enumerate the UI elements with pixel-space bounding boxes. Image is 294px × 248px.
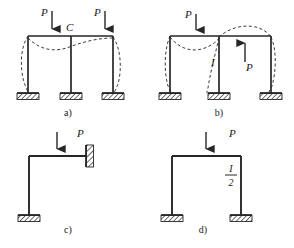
panel-a: P P C a) bbox=[17, 6, 124, 119]
panel-a-caption: a) bbox=[64, 107, 72, 119]
panel-a-node-c-label: C bbox=[66, 21, 74, 33]
panel-b-node-i-label: I bbox=[210, 56, 216, 68]
panel-b-load-up-label: P bbox=[245, 61, 253, 73]
panel-b-buckled-left-beam bbox=[170, 37, 219, 50]
buckled-curve-left-column bbox=[21, 36, 28, 92]
panel-c-caption: c) bbox=[64, 224, 72, 236]
panel-c-support-wall bbox=[86, 145, 94, 167]
figure-container: P P C a) bbox=[0, 0, 294, 248]
panel-a-support-right bbox=[102, 93, 124, 100]
panel-b-buckled-right-column bbox=[269, 37, 275, 93]
panel-c-load-label: P bbox=[76, 127, 84, 139]
panel-d-stiffness-numerator: I bbox=[228, 163, 233, 174]
structural-frames-figure: P P C a) bbox=[0, 0, 294, 248]
panel-b-caption: b) bbox=[215, 107, 223, 119]
panel-d-support-right bbox=[230, 215, 252, 222]
panel-d-support-left bbox=[161, 215, 183, 222]
panel-d-stiffness-denominator: 2 bbox=[229, 177, 234, 188]
buckled-curve-right-column bbox=[113, 37, 120, 93]
panel-d-load-label: P bbox=[228, 127, 236, 139]
panel-b: P P I b) bbox=[159, 8, 282, 119]
panel-a-load-right-label: P bbox=[93, 6, 101, 18]
panel-c-support-base bbox=[18, 215, 40, 222]
panel-d: P I 2 d) bbox=[161, 127, 252, 236]
panel-b-support-left bbox=[159, 93, 181, 100]
panel-d-caption: d) bbox=[199, 224, 207, 236]
panel-b-support-middle bbox=[208, 93, 230, 100]
panel-a-load-left-label: P bbox=[40, 6, 48, 18]
panel-b-load-down-label: P bbox=[184, 8, 192, 20]
panel-d-stiffness-label: I 2 bbox=[225, 163, 237, 188]
panel-a-support-middle bbox=[60, 93, 82, 100]
panel-a-support-left bbox=[17, 93, 39, 100]
panel-c: P c) bbox=[18, 127, 94, 236]
panel-b-support-right bbox=[260, 93, 282, 100]
